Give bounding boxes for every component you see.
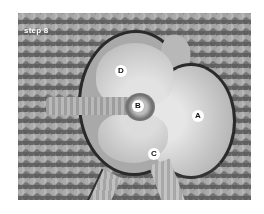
embroidery-photo: step 8 D B A C	[18, 13, 251, 200]
lower-stem	[80, 169, 121, 200]
label-marker-d: D	[115, 65, 127, 77]
label-marker-a: A	[192, 110, 204, 122]
step-caption: step 8	[24, 26, 48, 35]
label-marker-b: B	[132, 100, 144, 112]
label-marker-c: C	[148, 148, 160, 160]
